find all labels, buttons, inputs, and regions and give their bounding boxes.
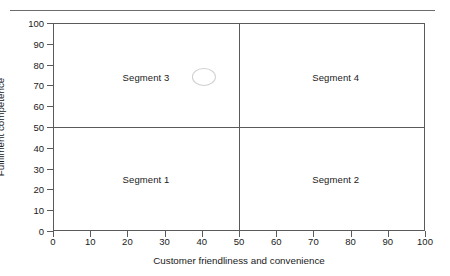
plot-area bbox=[53, 23, 425, 231]
x-axis-tick-label: 50 bbox=[234, 236, 245, 247]
x-axis-tick-label: 100 bbox=[417, 236, 433, 247]
y-axis-title: Fulfilment competence bbox=[0, 78, 6, 177]
x-axis-title: Customer friendliness and convenience bbox=[53, 255, 425, 266]
x-axis-tick-label: 10 bbox=[85, 236, 96, 247]
y-axis-tick-label: 30 bbox=[0, 163, 44, 174]
y-axis-tick-label: 100 bbox=[0, 18, 44, 29]
y-axis-tick-label: 80 bbox=[0, 59, 44, 70]
y-axis-tick bbox=[47, 148, 53, 149]
y-axis-tick bbox=[47, 127, 53, 128]
y-axis-tick-label: 60 bbox=[0, 101, 44, 112]
top-divider-rule bbox=[10, 10, 435, 11]
x-axis-tick-label: 30 bbox=[159, 236, 170, 247]
x-axis-tick-label: 60 bbox=[271, 236, 282, 247]
y-axis-tick bbox=[47, 210, 53, 211]
x-axis-tick-label: 80 bbox=[345, 236, 356, 247]
y-axis-tick-label: 0 bbox=[0, 226, 44, 237]
y-axis-tick-label: 10 bbox=[0, 205, 44, 216]
x-axis-tick-label: 0 bbox=[50, 236, 55, 247]
y-axis-tick bbox=[47, 65, 53, 66]
y-axis-tick bbox=[47, 44, 53, 45]
x-axis-tick-label: 70 bbox=[308, 236, 319, 247]
x-axis-tick-label: 90 bbox=[383, 236, 394, 247]
y-axis-tick bbox=[47, 85, 53, 86]
quadrant-label: Segment 1 bbox=[123, 174, 170, 185]
y-axis-tick-label: 50 bbox=[0, 122, 44, 133]
x-axis-tick-label: 40 bbox=[197, 236, 208, 247]
x-axis-tick-label: 20 bbox=[122, 236, 133, 247]
y-axis-tick bbox=[47, 23, 53, 24]
y-axis-tick bbox=[47, 189, 53, 190]
chart-figure: 0102030405060708090100 01020304050607080… bbox=[0, 0, 450, 276]
y-axis-tick bbox=[47, 169, 53, 170]
quadrant-label: Segment 2 bbox=[312, 174, 359, 185]
y-axis-tick-label: 70 bbox=[0, 80, 44, 91]
y-axis-tick-label: 90 bbox=[0, 38, 44, 49]
quadrant-label: Segment 3 bbox=[123, 72, 170, 83]
quadrant-divider-horizontal bbox=[54, 127, 424, 128]
quadrant-label: Segment 4 bbox=[312, 72, 359, 83]
y-axis-tick-label: 20 bbox=[0, 184, 44, 195]
y-axis-tick-label: 40 bbox=[0, 142, 44, 153]
y-axis-tick bbox=[47, 106, 53, 107]
